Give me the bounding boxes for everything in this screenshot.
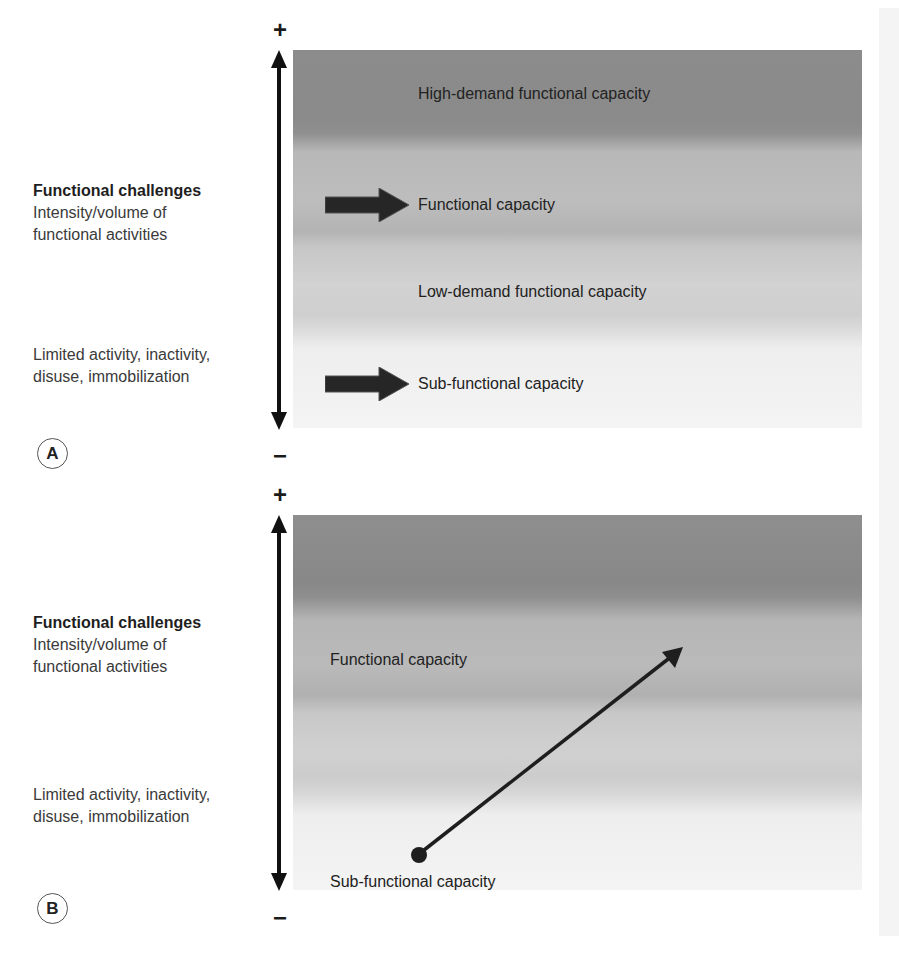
challenges-line-2: functional activities	[33, 224, 201, 246]
vertical-double-arrow-icon	[268, 50, 292, 430]
vertical-double-arrow-icon	[268, 515, 292, 891]
axis-minus-sign: −	[270, 906, 290, 930]
challenges-heading: Functional challenges	[33, 612, 201, 634]
progression-arrow-icon	[400, 636, 700, 876]
panel-label-a: A	[37, 438, 68, 469]
inactivity-label: Limited activity, inactivity, disuse, im…	[33, 344, 210, 388]
inactivity-line-2: disuse, immobilization	[33, 806, 210, 828]
page-edge-strip	[879, 8, 899, 936]
band-label-sub-functional: Sub-functional capacity	[418, 374, 583, 394]
inactivity-line-2: disuse, immobilization	[33, 366, 210, 388]
band-label-low-demand: Low-demand functional capacity	[418, 282, 647, 302]
challenges-line-2: functional activities	[33, 656, 201, 678]
right-arrow-icon	[325, 188, 409, 222]
challenges-heading: Functional challenges	[33, 180, 201, 202]
axis-minus-sign: −	[270, 444, 290, 468]
right-arrow-icon	[325, 367, 409, 401]
band-label-high-demand: High-demand functional capacity	[418, 84, 650, 104]
inactivity-line-1: Limited activity, inactivity,	[33, 784, 210, 806]
panel-label-b: B	[37, 893, 68, 924]
band-label-functional: Functional capacity	[418, 195, 555, 215]
axis-plus-sign: +	[270, 483, 290, 507]
challenges-label: Functional challenges Intensity/volume o…	[33, 612, 201, 678]
inactivity-label: Limited activity, inactivity, disuse, im…	[33, 784, 210, 828]
inactivity-line-1: Limited activity, inactivity,	[33, 344, 210, 366]
challenges-line-1: Intensity/volume of	[33, 202, 201, 224]
axis-plus-sign: +	[270, 18, 290, 42]
challenges-line-1: Intensity/volume of	[33, 634, 201, 656]
challenges-label: Functional challenges Intensity/volume o…	[33, 180, 201, 246]
